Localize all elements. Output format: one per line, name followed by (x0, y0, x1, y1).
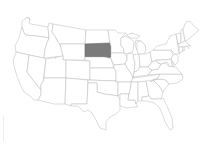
state-maine[interactable] (183, 21, 199, 41)
state-colorado[interactable] (66, 60, 90, 80)
state-wyoming[interactable] (60, 44, 85, 60)
states-layer (13, 17, 199, 130)
us-states-map (0, 0, 220, 147)
state-new-mexico[interactable] (65, 78, 88, 106)
state-connecticut[interactable] (179, 47, 183, 53)
state-florida[interactable] (142, 96, 173, 130)
state-kansas[interactable] (90, 68, 116, 81)
state-south-dakota[interactable] (85, 43, 111, 58)
state-michigan-upper[interactable] (126, 33, 140, 38)
attribution-mark (3, 116, 4, 142)
state-north-dakota[interactable] (85, 30, 110, 44)
state-iowa[interactable] (111, 53, 127, 65)
state-michigan-lower[interactable] (137, 41, 146, 54)
state-rhode-island[interactable] (183, 47, 185, 51)
state-utah[interactable] (44, 56, 66, 78)
